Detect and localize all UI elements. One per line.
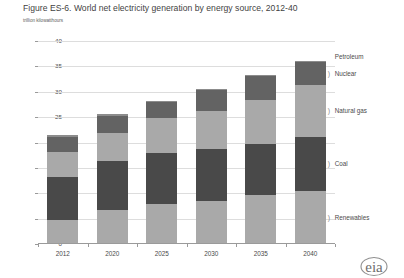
x-axis-tick-label: 2035 [236,250,286,257]
bar-2035 [245,41,276,244]
bar-segment-coal [47,177,78,221]
x-axis-tick-mark [335,244,336,247]
bar-segment-natural-gas [295,85,326,137]
x-axis-tick-mark [38,244,39,247]
x-axis-tick-mark [137,244,138,247]
eia-logo: eia [354,255,394,277]
legend-label-petroleum: Petroleum [335,53,364,60]
bar-segment-natural-gas [245,100,276,144]
x-axis-tick-label: 2030 [186,250,236,257]
x-axis-tick-label: 2020 [87,250,137,257]
bar-segment-nuclear [47,137,78,152]
gridline [38,117,335,118]
bar-segment-nuclear [295,62,326,85]
plot-area [38,41,335,244]
gridline [38,168,335,169]
gridline [38,193,335,194]
figure-container: Figure ES-6. World net electricity gener… [0,0,404,278]
gridline [38,143,335,144]
bar-segment-coal [146,153,177,204]
legend-label-nuclear: Nuclear [335,70,357,77]
x-axis-tick-label: 2040 [285,250,335,257]
bar-segment-renewables [245,195,276,244]
legend-connector-icon: ) [328,107,330,114]
bar-2025 [146,41,177,244]
bar-segment-petroleum [97,114,128,116]
gridline [38,92,335,93]
x-axis-tick-mark [286,244,287,247]
bar-segment-natural-gas [146,118,177,154]
bar-segment-renewables [295,191,326,244]
figure-title: Figure ES-6. World net electricity gener… [23,3,298,13]
bar-segment-renewables [47,220,78,244]
bar-segment-natural-gas [196,111,227,150]
bar-2040 [295,41,326,244]
bar-segment-renewables [97,210,128,245]
x-axis-tick-label: 2025 [137,250,187,257]
x-axis-tick-label: 2012 [38,250,88,257]
bar-segment-renewables [146,204,177,244]
bar-segment-nuclear [196,90,227,110]
bar-segment-renewables [196,201,227,244]
bar-2030 [196,41,227,244]
bar-segment-natural-gas [97,133,128,160]
bar-2012 [47,41,78,244]
bar-segment-petroleum [295,61,326,62]
bar-segment-coal [196,149,227,201]
bar-segment-petroleum [196,89,227,90]
bar-segment-petroleum [245,75,276,76]
x-axis-tick-mark [88,244,89,247]
figure-subtitle: trillion kilowatthours [23,18,63,23]
legend-connector-icon: ) [328,160,330,167]
bar-segment-nuclear [97,116,128,134]
eia-logo-text: eia [365,259,383,275]
x-axis-tick-mark [187,244,188,247]
legend-label-coal: Coal [335,160,348,167]
bar-segment-coal [97,161,128,210]
gridline [38,41,335,42]
bar-2020 [97,41,128,244]
bar-segment-nuclear [146,102,177,117]
legend-connector-icon: ) [328,70,330,77]
gridline [38,66,335,67]
bar-segment-coal [245,144,276,196]
gridline [38,219,335,220]
bar-segment-coal [295,137,326,191]
bar-segment-petroleum [47,135,78,137]
bar-segment-natural-gas [47,152,78,176]
x-axis-tick-mark [236,244,237,247]
legend-label-natural-gas: Natural gas [335,107,367,114]
legend-connector-icon: ) [328,214,330,221]
legend-label-renewables: Renewables [335,214,370,221]
bar-segment-nuclear [245,76,276,100]
bar-segment-petroleum [146,101,177,102]
